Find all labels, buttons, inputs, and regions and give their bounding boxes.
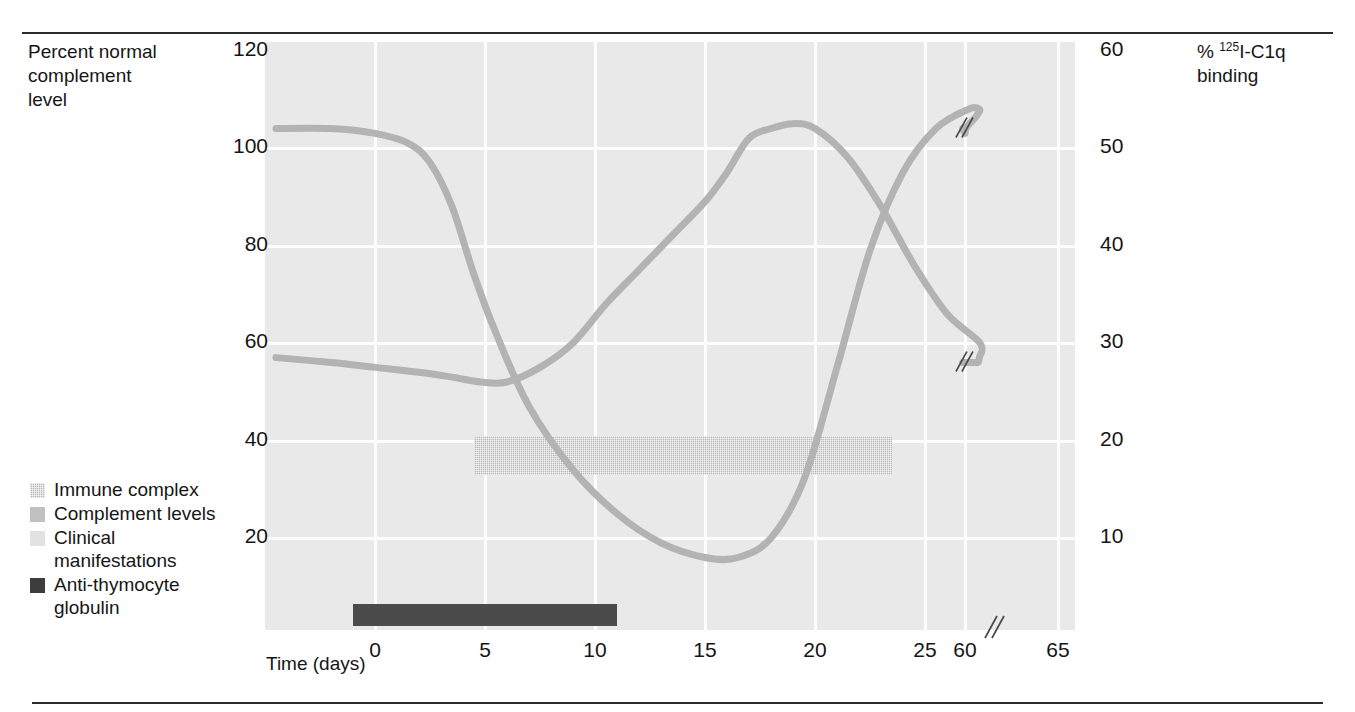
figure-container: Percent normal complement level % 125I-C…: [0, 0, 1355, 712]
x-axis-tick-label: 0: [369, 638, 381, 662]
x-axis-tick-label: 10: [583, 638, 606, 662]
y-axis-right-tick-label: 10: [1100, 524, 1123, 548]
light-swatch-icon: [30, 531, 45, 546]
legend-item-label: Complement levels: [54, 502, 216, 525]
y-axis-left-tick-label: 80: [245, 232, 268, 256]
legend-item: Anti-thymocyte globulin: [30, 573, 255, 619]
y-axis-left-tick-label: 120: [233, 37, 268, 61]
top-rule: [22, 32, 1333, 34]
curve-immune-complex: [276, 124, 982, 384]
y-axis-left-tick-label: 60: [245, 329, 268, 353]
y-axis-left-tick-label: 100: [233, 134, 268, 158]
legend: Immune complexComplement levelsClinical …: [30, 478, 255, 620]
legend-item-label: Anti-thymocyte globulin: [54, 573, 180, 619]
x-axis-tick-label: 20: [803, 638, 826, 662]
left-axis-title: Percent normal complement level: [28, 40, 213, 112]
y-axis-right-tick-label: 20: [1100, 427, 1123, 451]
right-axis-title-prefix: %: [1197, 41, 1219, 62]
x-axis-tick-label: 5: [479, 638, 491, 662]
curve-complement-levels: [276, 107, 980, 559]
right-axis-title: % 125I-C1q binding: [1197, 40, 1347, 88]
right-axis-title-superscript: 125: [1219, 40, 1239, 54]
x-axis-tick-label: 15: [693, 638, 716, 662]
y-axis-right-tick-label: 60: [1100, 37, 1123, 61]
dark-swatch-icon: [30, 578, 45, 593]
legend-item-label: Clinical manifestations: [54, 526, 177, 572]
x-axis-tick-label: 60: [953, 638, 976, 662]
anti-thymocyte-globulin-bar: [353, 604, 617, 626]
plot-area: [265, 42, 1075, 630]
curve-layer: [265, 42, 1075, 630]
y-axis-left-tick-label: 40: [245, 427, 268, 451]
bottom-rule: [32, 702, 1323, 704]
solid-swatch-icon: [30, 507, 45, 522]
x-axis-tick-label: 65: [1046, 638, 1069, 662]
x-axis-tick-label: 25: [913, 638, 936, 662]
x-axis-break-marker-icon: [983, 612, 1017, 646]
legend-item: Clinical manifestations: [30, 526, 255, 572]
hatch-swatch-icon: [30, 483, 45, 498]
y-axis-right-tick-label: 30: [1100, 329, 1123, 353]
x-axis-title: Time (days): [266, 652, 366, 676]
y-axis-right-tick-label: 40: [1100, 232, 1123, 256]
legend-item: Complement levels: [30, 502, 255, 525]
legend-item: Immune complex: [30, 478, 255, 501]
legend-item-label: Immune complex: [54, 478, 199, 501]
y-axis-right-tick-label: 50: [1100, 134, 1123, 158]
